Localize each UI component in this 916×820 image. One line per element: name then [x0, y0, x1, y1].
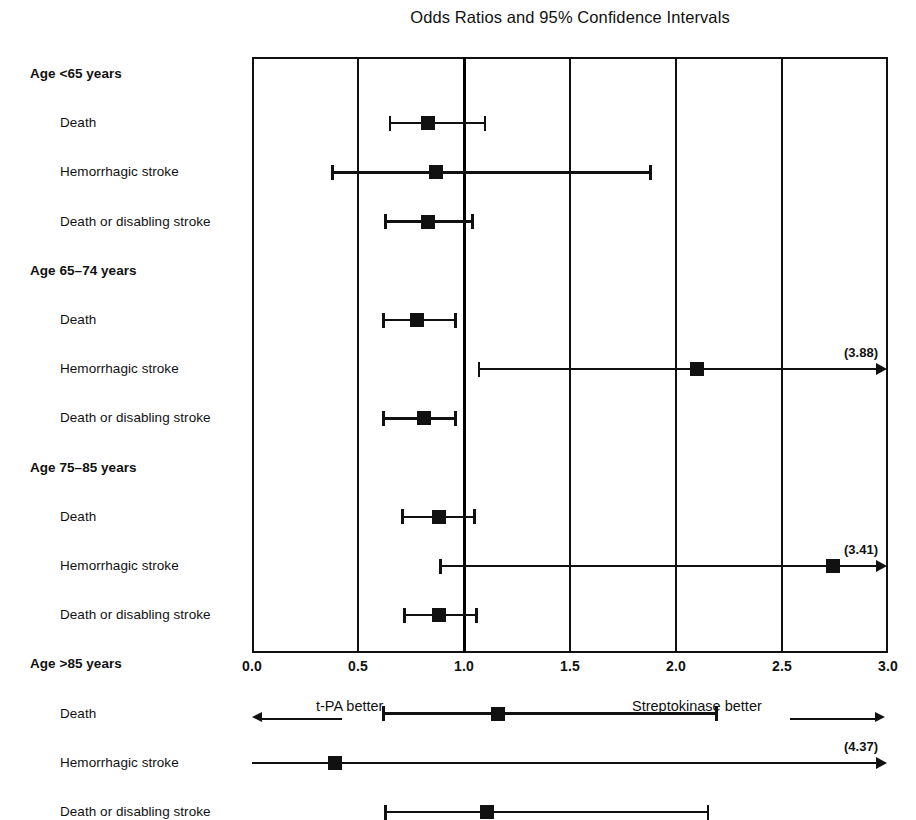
odds-ratio-marker: [410, 313, 424, 327]
ci-lower-cap: [439, 559, 442, 574]
odds-ratio-marker: [421, 215, 435, 229]
ci-lower-cap: [331, 165, 334, 180]
left-annotation-label: t-PA better: [316, 698, 383, 714]
ci-line-extension: [252, 762, 253, 765]
ci-upper-cap: [471, 214, 474, 229]
ci-lower-cap: [382, 411, 385, 426]
x-tick-label: 1.5: [560, 658, 580, 674]
odds-ratio-marker: [480, 805, 494, 819]
x-tick-label: 0.0: [242, 658, 262, 674]
x-tick-label: 3.0: [878, 658, 898, 674]
odds-ratio-marker: [491, 707, 505, 721]
ci-upper-cap: [475, 608, 478, 623]
row-label: Hemorrhagic stroke: [60, 558, 179, 573]
gridline-0-5: [357, 57, 359, 653]
chart-title: Odds Ratios and 95% Confidence Intervals: [252, 8, 888, 27]
row-label: Death or disabling stroke: [60, 607, 211, 622]
gridline-2: [675, 57, 677, 653]
ci-truncation-arrow: [876, 363, 887, 375]
truncated-value-label: (4.37): [844, 738, 878, 753]
x-tick-label: 1.0: [454, 658, 474, 674]
ci-truncation-arrow: [876, 757, 887, 769]
row-label: Death or disabling stroke: [60, 214, 211, 229]
truncated-value-label: (3.88): [844, 345, 878, 360]
ci-upper-cap: [707, 805, 710, 820]
truncated-value-label: (3.41): [844, 542, 878, 557]
ci-upper-cap: [473, 509, 476, 524]
ci-lower-cap: [384, 214, 387, 229]
confidence-interval-line: [386, 811, 708, 814]
ci-lower-cap: [384, 805, 387, 820]
gridline-2-5: [781, 57, 783, 653]
odds-ratio-marker: [826, 559, 840, 573]
group-label: Age 65–74 years: [30, 263, 137, 278]
group-label: Age <65 years: [30, 66, 122, 81]
right-annotation-arrow-head: [875, 712, 885, 722]
x-tick-label: 2.5: [772, 658, 792, 674]
confidence-interval-line: [390, 122, 485, 125]
left-annotation-arrow-line: [262, 718, 342, 720]
ci-lower-cap: [478, 362, 481, 377]
confidence-interval-line: [441, 565, 878, 568]
ci-lower-cap: [382, 313, 385, 328]
odds-ratio-marker: [328, 756, 342, 770]
odds-ratio-marker: [432, 510, 446, 524]
gridline-1: [463, 57, 466, 653]
ci-truncation-arrow: [876, 560, 887, 572]
confidence-interval-line: [479, 368, 878, 371]
ci-lower-cap: [403, 608, 406, 623]
odds-ratio-marker: [421, 116, 435, 130]
row-label: Death or disabling stroke: [60, 804, 211, 819]
right-annotation-label: Streptokinase better: [632, 698, 762, 714]
x-tick-label: 0.5: [348, 658, 368, 674]
row-label: Death: [60, 115, 96, 130]
gridline-1-5: [569, 57, 571, 653]
x-tick-label: 2.0: [666, 658, 686, 674]
row-label: Hemorrhagic stroke: [60, 164, 179, 179]
odds-ratio-marker: [429, 165, 443, 179]
left-annotation-arrow-head: [252, 712, 262, 722]
ci-upper-cap: [649, 165, 652, 180]
ci-upper-cap: [484, 116, 487, 131]
odds-ratio-marker: [417, 411, 431, 425]
odds-ratio-marker: [432, 608, 446, 622]
ci-lower-cap: [389, 116, 392, 131]
confidence-interval-line: [333, 171, 651, 174]
ci-upper-cap: [454, 313, 457, 328]
row-label: Hemorrhagic stroke: [60, 361, 179, 376]
group-label: Age >85 years: [30, 656, 122, 671]
confidence-interval-line: [252, 762, 878, 765]
row-label: Death: [60, 312, 96, 327]
odds-ratio-marker: [690, 362, 704, 376]
ci-lower-cap: [401, 509, 404, 524]
row-label: Death or disabling stroke: [60, 410, 211, 425]
row-label: Death: [60, 509, 96, 524]
right-annotation-arrow-line: [790, 718, 875, 720]
group-label: Age 75–85 years: [30, 460, 137, 475]
row-label: Hemorrhagic stroke: [60, 755, 179, 770]
ci-upper-cap: [454, 411, 457, 426]
row-label: Death: [60, 706, 96, 721]
